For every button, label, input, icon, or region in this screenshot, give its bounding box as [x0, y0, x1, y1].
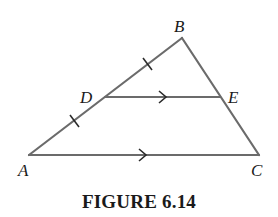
label-e: E [227, 88, 239, 107]
triangle-diagram: B D E A C [0, 0, 278, 217]
tick-mark-db [143, 58, 152, 70]
figure-caption: FIGURE 6.14 [0, 191, 278, 213]
label-b: B [174, 17, 185, 36]
label-d: D [79, 88, 93, 107]
label-c: C [251, 161, 263, 180]
label-a: A [17, 161, 29, 180]
